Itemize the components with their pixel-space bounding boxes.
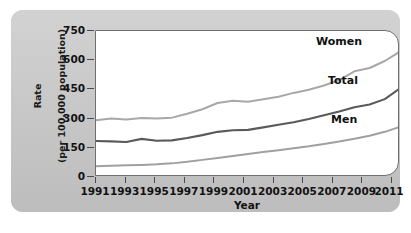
x-tick-mark-1993 [125,177,126,183]
x-tick-mark-1997 [184,177,185,183]
y-axis-ticks: 750 600 450 300 150 0 [47,30,85,176]
series-label-women: Women [316,35,362,48]
x-tick-label-2011: 2011 [371,185,407,197]
chart-figure: Rate (per 100,000 population) 750 600 45… [0,0,411,233]
x-axis-title: Year [95,199,399,211]
y-tick-label-0: 0 [51,170,85,182]
y-tick-label-450: 450 [51,82,85,94]
y-tick-mark-450 [87,88,94,89]
x-tick-mark-2001 [243,177,244,183]
y-tick-mark-150 [87,147,94,148]
y-tick-label-300: 300 [51,112,85,124]
x-tick-mark-2009 [361,177,362,183]
series-label-total: Total [328,74,358,87]
series-label-men: Men [331,113,357,126]
y-tick-label-150: 150 [51,141,85,153]
chart-panel: Rate (per 100,000 population) 750 600 45… [11,10,400,212]
plot-area [95,30,399,176]
x-tick-mark-1991 [95,177,96,183]
y-tick-mark-300 [87,118,94,119]
x-tick-mark-2003 [273,177,274,183]
x-tick-mark-2005 [302,177,303,183]
x-tick-mark-2011 [391,177,392,183]
y-tick-mark-600 [87,59,94,60]
x-tick-mark-1999 [213,177,214,183]
y-tick-mark-0 [87,176,94,177]
y-tick-mark-750 [87,30,94,31]
y-tick-label-750: 750 [51,24,85,36]
series-lines [96,31,399,176]
x-tick-mark-2007 [332,177,333,183]
y-axis-title-line1: Rate [32,21,44,171]
series-line-men [96,127,399,167]
y-tick-label-600: 600 [51,53,85,65]
x-tick-mark-1995 [154,177,155,183]
